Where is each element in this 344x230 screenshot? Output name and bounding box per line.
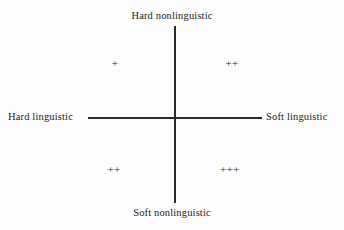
vertical-axis-line [174,26,176,203]
quadrant-diagram: Hard nonlinguistic Soft nonlinguistic Ha… [0,0,344,230]
quadrant-marker-upper-left: + [112,57,119,69]
axis-label-bottom: Soft nonlinguistic [0,207,344,219]
quadrant-marker-upper-right: ++ [225,57,238,69]
quadrant-marker-lower-left: ++ [107,163,120,175]
horizontal-axis-line [88,117,262,119]
axis-label-left: Hard linguistic [8,111,73,123]
axis-label-right: Soft linguistic [266,111,327,123]
quadrant-marker-lower-right: +++ [220,163,240,175]
axis-label-top: Hard nonlinguistic [0,10,344,22]
